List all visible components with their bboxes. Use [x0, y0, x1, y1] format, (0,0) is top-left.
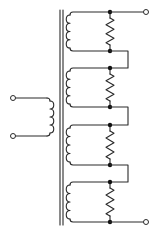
secondary-3-lead-bottom	[70, 162, 110, 165]
secondary-1-lead-bottom	[70, 48, 110, 51]
output-terminal-bottom[interactable]	[144, 220, 149, 225]
secondary-2-lead-bottom	[70, 104, 110, 107]
jumper-2-3	[110, 107, 128, 125]
jumper-1-2	[110, 51, 128, 68]
primary-lead-bend-bottom	[47, 133, 50, 136]
secondary-2-lead-top	[70, 68, 110, 71]
primary-coil	[50, 101, 54, 133]
transformer-schematic: Transformer with four series-connected s…	[0, 0, 155, 231]
resistor-1-zigzag	[106, 18, 114, 45]
primary-lead-bend-top	[47, 98, 50, 101]
node-3-top	[108, 123, 112, 127]
primary-terminal-bottom[interactable]	[11, 134, 16, 139]
secondary-4-lead-top	[70, 182, 110, 185]
node-2-top	[108, 66, 112, 70]
primary-terminal-top[interactable]	[11, 96, 16, 101]
resistor-2-zigzag	[106, 74, 114, 101]
resistor-4-zigzag	[106, 188, 114, 216]
secondary-1-coil	[66, 15, 70, 48]
secondary-1-lead-top	[70, 12, 110, 15]
secondary-3-lead-top	[70, 125, 110, 128]
jumper-3-4	[110, 165, 128, 182]
schematic-canvas	[0, 0, 155, 231]
secondary-2-coil	[66, 71, 70, 104]
secondary-4-coil	[66, 185, 70, 219]
output-terminal-top[interactable]	[144, 10, 149, 15]
secondary-4-lead-bottom	[70, 219, 110, 222]
node-4-top	[108, 180, 112, 184]
resistor-3-zigzag	[106, 131, 114, 159]
secondary-3-coil	[66, 128, 70, 162]
